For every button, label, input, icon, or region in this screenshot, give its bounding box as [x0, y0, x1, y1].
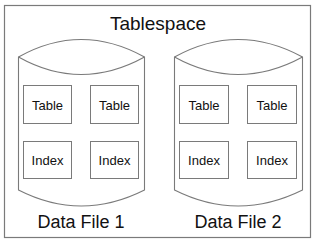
data-file-1-index-label-2: Index [99, 153, 131, 168]
data-file-2-index-label-1: Index [188, 153, 220, 168]
data-file-1-index-label-1: Index [32, 153, 64, 168]
tablespace-diagram: Tablespace Table Table Index Index Data … [0, 0, 316, 243]
data-file-1-table-label-2: Table [99, 98, 130, 113]
data-file-2-table-label-2: Table [256, 98, 287, 113]
data-file-1-label: Data File 1 [37, 212, 124, 232]
tablespace-title: Tablespace [110, 13, 206, 34]
data-file-1-table-label-1: Table [32, 98, 63, 113]
data-file-2-index-label-2: Index [256, 153, 288, 168]
data-file-2-table-label-1: Table [188, 98, 219, 113]
data-file-2-label: Data File 2 [194, 212, 281, 232]
